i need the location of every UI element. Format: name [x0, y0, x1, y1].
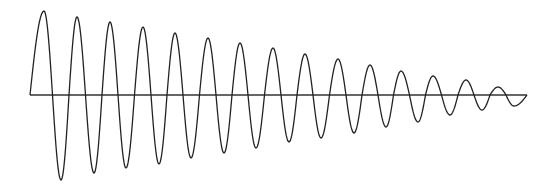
damped-oscillation-chart	[0, 0, 554, 189]
